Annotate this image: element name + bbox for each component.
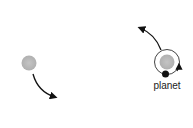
diagram-canvas [0, 0, 193, 128]
right-star [160, 55, 175, 70]
left-motion-arrow [33, 74, 55, 97]
right-motion-arrow [140, 28, 161, 50]
planet [162, 71, 169, 78]
left-star [22, 56, 37, 71]
orbit-direction-arrow [177, 65, 179, 71]
planet-label: planet [150, 80, 184, 91]
